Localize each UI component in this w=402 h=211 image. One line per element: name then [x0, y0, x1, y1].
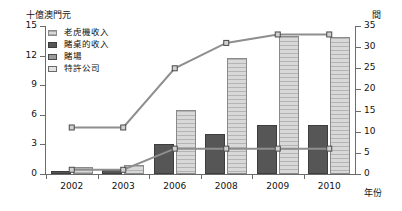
legend-label-casinos: 賭場	[64, 52, 82, 61]
legend-item-casinos: 賭場	[48, 51, 109, 62]
line-marker	[121, 167, 126, 172]
line-marker	[172, 146, 177, 151]
y-axis-left-tick-label: 15	[15, 20, 37, 30]
x-axis-tick	[149, 175, 150, 179]
y-axis-left-tick-label: 6	[15, 109, 37, 119]
x-axis-tick	[98, 175, 99, 179]
x-axis-tick	[46, 175, 47, 179]
line-marker	[121, 125, 126, 130]
x-axis-tick-label: 2006	[152, 181, 198, 191]
x-axis-tick-label: 2010	[306, 181, 352, 191]
y-axis-right-tick-label: 0	[364, 168, 384, 178]
y-axis-right-tick	[356, 153, 361, 154]
y-axis-right-tick-label: 25	[364, 62, 384, 72]
x-axis-tick	[304, 175, 305, 179]
y-axis-left-tick-label: 0	[15, 168, 37, 178]
y-axis-left-tick-label: 3	[15, 138, 37, 148]
legend-swatch-table-revenue	[48, 42, 57, 48]
y-axis-left-tick-label: 12	[15, 50, 37, 60]
line-marker	[224, 40, 229, 45]
x-axis-tick-label: 2003	[100, 181, 146, 191]
chart-container: 十億澳門元 間 年份 03691215 05101520253035 20022…	[0, 0, 402, 211]
line-marker	[69, 167, 74, 172]
y-axis-right-tick	[356, 174, 361, 175]
legend-swatch-casinos	[48, 54, 57, 60]
y-axis-right-tick	[356, 47, 361, 48]
y-axis-right-tick-label: 15	[364, 105, 384, 115]
y-axis-right-tick	[356, 26, 361, 27]
line-concessionaires	[72, 149, 330, 170]
y-axis-left-tick	[40, 115, 45, 116]
x-axis-tick-label: 2009	[255, 181, 301, 191]
line-marker	[327, 32, 332, 37]
y-axis-left-tick	[40, 144, 45, 145]
y-axis-left-tick	[40, 85, 45, 86]
y-axis-right-tick	[356, 111, 361, 112]
y-axis-left-tick-label: 9	[15, 79, 37, 89]
y-axis-right-tick	[356, 89, 361, 90]
y-axis-left-tick	[40, 56, 45, 57]
legend-item-concessionaires: 特許公司	[48, 63, 109, 74]
legend-label-table-revenue: 賭桌的收入	[64, 40, 109, 49]
y-axis-left-tick	[40, 26, 45, 27]
line-marker	[224, 146, 229, 151]
legend-item-table-revenue: 賭桌的收入	[48, 39, 109, 50]
y-axis-right-tick-label: 10	[364, 126, 384, 136]
x-axis-tick	[201, 175, 202, 179]
legend-swatch-concessionaires	[48, 66, 57, 72]
x-axis-unit-label: 年份	[364, 186, 382, 199]
x-axis-tick-label: 2008	[203, 181, 249, 191]
y-axis-right-tick-label: 20	[364, 83, 384, 93]
x-axis-tick-label: 2002	[49, 181, 95, 191]
y-axis-right-tick-label: 30	[364, 41, 384, 51]
y-axis-right-tick	[356, 132, 361, 133]
line-marker	[69, 125, 74, 130]
line-marker	[172, 66, 177, 71]
x-axis-tick	[252, 175, 253, 179]
line-marker	[275, 32, 280, 37]
legend-item-slot-revenue: 老虎機收入	[48, 27, 109, 38]
y-axis-right-tick	[356, 68, 361, 69]
line-casinos	[72, 34, 330, 127]
y-axis-right-tick-label: 35	[364, 20, 384, 30]
line-marker	[275, 146, 280, 151]
chart-legend: 老虎機收入 賭桌的收入 賭場 特許公司	[48, 27, 109, 75]
legend-label-concessionaires: 特許公司	[64, 64, 100, 73]
legend-swatch-slot-revenue	[48, 30, 57, 36]
y-axis-right-tick-label: 5	[364, 147, 384, 157]
y-axis-left-tick	[40, 174, 45, 175]
line-marker	[327, 146, 332, 151]
legend-label-slot-revenue: 老虎機收入	[64, 28, 109, 37]
